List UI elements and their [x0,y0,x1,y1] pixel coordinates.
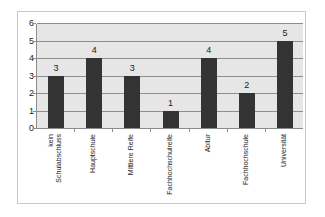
data-label: 1 [163,98,179,108]
x-category-label-line: Mittlere Reife [127,134,135,175]
bar [163,111,179,129]
x-tick-mark [265,129,266,132]
bar [277,41,293,129]
gridline [37,58,303,59]
gridline [37,76,303,77]
x-category-label-line: Fachhochschule [242,134,250,185]
x-category-label: Fachhochschulreife [166,134,174,195]
data-label: 5 [277,28,293,38]
x-category-label: Universität [280,134,288,167]
x-tick-mark [150,129,151,132]
x-tick-mark [227,129,228,132]
x-category-label: keinSchulabschluss [47,134,63,183]
x-category-label-line: Hauptschule [89,134,97,173]
x-tick-mark [74,129,75,132]
x-category-label-line: Abitur [204,134,212,152]
x-category-label-line: Fachhochschulreife [166,134,174,195]
data-label: 4 [201,45,217,55]
x-category-label: Mittlere Reife [127,134,135,175]
x-category-label: Abitur [204,134,212,152]
x-category-label-line: Universität [280,134,288,167]
bar [201,58,217,128]
data-label: 3 [48,63,64,73]
bar [239,93,255,128]
x-category-label: Fachhochschule [242,134,250,185]
x-category-label-line: kein [47,134,55,183]
x-category-label: Hauptschule [89,134,97,173]
data-label: 4 [86,45,102,55]
x-category-label-line: Schulabschluss [55,134,63,183]
gridline [37,93,303,94]
data-label: 3 [124,63,140,73]
gridline [37,41,303,42]
plot-area: 3431425 [36,24,303,129]
gridline [37,23,303,24]
bar [86,58,102,128]
x-tick-mark [189,129,190,132]
bar [48,76,64,129]
x-tick-mark [112,129,113,132]
data-label: 2 [239,80,255,90]
bar [124,76,140,129]
